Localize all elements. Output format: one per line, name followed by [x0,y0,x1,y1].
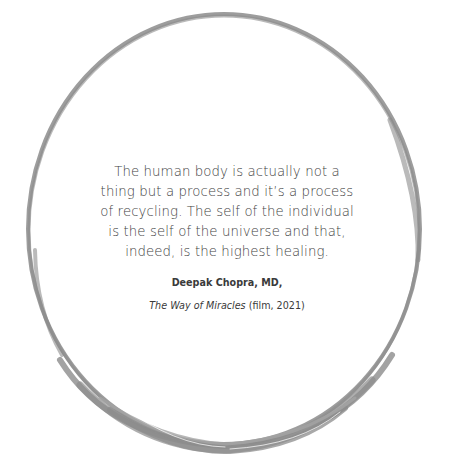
source-title: The Way of Miracles [149,300,245,311]
quote-source: The Way of Miracles (film, 2021) [95,299,359,312]
quote-text: The human body is actually not a thing b… [95,162,359,262]
source-details: (film, 2021) [246,300,305,311]
quote-line: of recycling. The self of the individual [100,204,353,219]
quote-line: is the self of the universe and that, [108,224,345,239]
quote-author: Deepak Chopra, MD, [95,276,359,289]
quote-block: The human body is actually not a thing b… [95,162,359,312]
quote-line: thing but a process and it’s a process [101,184,354,199]
quote-line: The human body is actually not a [114,164,340,179]
quote-line: indeed, is the highest healing. [125,244,329,259]
